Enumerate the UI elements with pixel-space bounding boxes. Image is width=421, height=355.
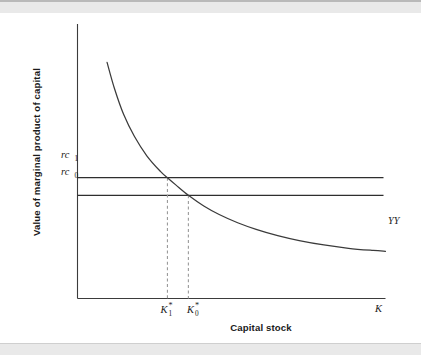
yy-curve-label: YY — [388, 215, 401, 226]
rc1-label-text: rc — [61, 149, 70, 160]
y-axis-title: Value of marginal product of capital — [31, 68, 42, 236]
k1-star-base: K — [160, 304, 169, 315]
rc0-label-subscript: 0 — [75, 171, 79, 180]
x-axis-end-label: K — [374, 303, 383, 314]
k0-star-base: K — [186, 304, 195, 315]
k0-star-tick-label: K * 0 — [186, 301, 199, 318]
k1-star-subscript: 1 — [169, 309, 173, 318]
rc0-axis-label: rc 0 — [61, 166, 79, 180]
yy-curve — [107, 62, 385, 251]
k0-star-subscript: 0 — [195, 309, 199, 318]
rc1-axis-label: rc 1 — [61, 149, 79, 163]
rc1-label-subscript: 1 — [75, 154, 79, 163]
plot-layer — [78, 24, 386, 299]
label-layer: Value of marginal product of capital Cap… — [31, 68, 401, 333]
k1-star-tick-label: K * 1 — [160, 301, 173, 318]
capital-demand-chart: Value of marginal product of capital Cap… — [0, 0, 421, 355]
rc0-label-text: rc — [61, 166, 70, 177]
figure-root: Value of marginal product of capital Cap… — [0, 0, 421, 355]
x-axis-title: Capital stock — [230, 322, 292, 333]
